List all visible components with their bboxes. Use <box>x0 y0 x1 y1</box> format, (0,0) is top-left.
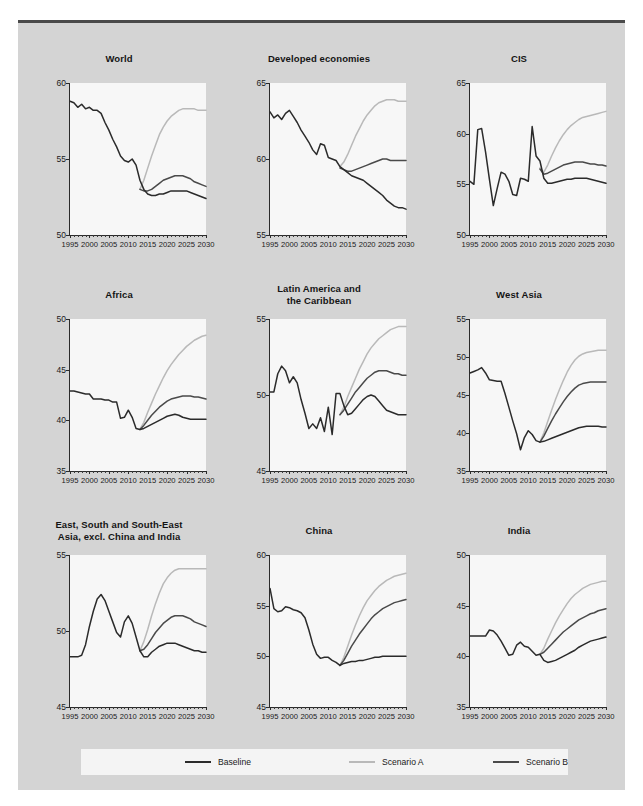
x-tick-mark <box>309 471 310 474</box>
x-tick-minor <box>144 471 145 473</box>
chart-panel: World50556019952000200520102015202020252… <box>18 53 220 275</box>
y-tick-label: 65 <box>226 78 266 88</box>
x-tick-label: 2020 <box>159 712 176 721</box>
x-tick-minor <box>521 235 522 237</box>
x-tick-label: 2010 <box>120 476 137 485</box>
x-tick-minor <box>594 235 595 237</box>
x-tick-minor <box>536 707 537 709</box>
x-tick-minor <box>375 235 376 237</box>
x-tick-mark <box>167 707 168 710</box>
y-tick-label: 55 <box>226 601 266 611</box>
panel-title: China <box>218 525 420 537</box>
x-tick-minor <box>590 707 591 709</box>
y-tick-label: 45 <box>426 390 466 400</box>
x-tick-mark <box>406 707 407 710</box>
x-tick-mark <box>109 707 110 710</box>
x-tick-label: 2000 <box>481 476 498 485</box>
x-tick-minor <box>590 471 591 473</box>
x-tick-label: 1995 <box>62 712 79 721</box>
x-tick-minor <box>171 235 172 237</box>
panel-title: India <box>418 525 620 537</box>
panel-title: East, South and South-EastAsia, excl. Ch… <box>18 519 220 543</box>
x-tick-minor <box>144 707 145 709</box>
x-tick-minor <box>132 235 133 237</box>
x-tick-label: 2025 <box>378 712 395 721</box>
series-layer <box>270 319 406 471</box>
x-tick-minor <box>513 707 514 709</box>
x-tick-label: 2030 <box>598 712 615 721</box>
x-tick-minor <box>540 471 541 473</box>
x-tick-minor <box>175 707 176 709</box>
x-tick-minor <box>536 235 537 237</box>
x-tick-minor <box>336 471 337 473</box>
x-tick-minor <box>497 471 498 473</box>
series-line <box>540 162 606 174</box>
y-tick-label: 60 <box>226 154 266 164</box>
x-tick-label: 2010 <box>320 712 337 721</box>
x-tick-minor <box>363 235 364 237</box>
x-tick-minor <box>552 471 553 473</box>
x-tick-minor <box>402 471 403 473</box>
x-tick-minor <box>355 471 356 473</box>
series-line <box>540 382 606 442</box>
x-tick-minor <box>478 707 479 709</box>
x-tick-minor <box>398 235 399 237</box>
x-tick-minor <box>394 707 395 709</box>
series-line <box>540 609 606 655</box>
x-tick-mark <box>206 235 207 238</box>
x-tick-minor <box>159 235 160 237</box>
x-tick-minor <box>359 235 360 237</box>
x-tick-minor <box>159 471 160 473</box>
x-tick-minor <box>317 707 318 709</box>
x-tick-mark <box>367 471 368 474</box>
y-tick-label: 65 <box>426 78 466 88</box>
x-tick-minor <box>340 707 341 709</box>
x-tick-minor <box>163 707 164 709</box>
x-tick-mark <box>489 471 490 474</box>
x-tick-minor <box>74 471 75 473</box>
legend-item: Scenario B <box>493 757 568 767</box>
x-tick-minor <box>505 235 506 237</box>
x-tick-minor <box>86 235 87 237</box>
x-tick-minor <box>297 235 298 237</box>
series-line <box>70 101 206 198</box>
x-tick-mark <box>289 471 290 474</box>
x-tick-minor <box>394 471 395 473</box>
x-tick-mark <box>387 235 388 238</box>
x-tick-minor <box>602 235 603 237</box>
x-tick-minor <box>563 471 564 473</box>
x-tick-minor <box>555 707 556 709</box>
x-tick-mark <box>89 235 90 238</box>
x-tick-label: 2025 <box>178 240 195 249</box>
x-tick-minor <box>175 471 176 473</box>
x-tick-minor <box>493 235 494 237</box>
x-tick-minor <box>390 707 391 709</box>
x-tick-minor <box>478 235 479 237</box>
y-tick-label: 50 <box>226 651 266 661</box>
x-tick-minor <box>532 471 533 473</box>
x-tick-label: 2020 <box>159 476 176 485</box>
x-tick-minor <box>74 707 75 709</box>
x-tick-mark <box>509 235 510 238</box>
x-tick-mark <box>148 707 149 710</box>
x-tick-minor <box>379 235 380 237</box>
x-tick-minor <box>493 707 494 709</box>
x-tick-minor <box>486 471 487 473</box>
x-tick-label: 2000 <box>281 476 298 485</box>
x-tick-minor <box>121 471 122 473</box>
x-tick-minor <box>375 707 376 709</box>
x-tick-label: 2015 <box>139 712 156 721</box>
x-tick-minor <box>171 471 172 473</box>
x-tick-label: 2000 <box>81 712 98 721</box>
x-tick-label: 2025 <box>578 240 595 249</box>
y-tick-label: 40 <box>426 428 466 438</box>
y-tick-label: 50 <box>26 314 66 324</box>
x-tick-minor <box>524 707 525 709</box>
x-tick-minor <box>575 707 576 709</box>
x-tick-minor <box>332 471 333 473</box>
x-tick-minor <box>301 235 302 237</box>
x-tick-minor <box>113 707 114 709</box>
x-tick-minor <box>513 471 514 473</box>
x-tick-mark <box>328 235 329 238</box>
x-tick-minor <box>297 707 298 709</box>
